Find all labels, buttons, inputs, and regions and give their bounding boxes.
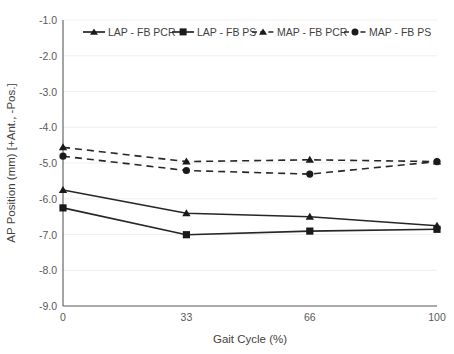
legend-item-label: LAP - FB PCR <box>108 26 176 38</box>
y-tick-label: -4.0 <box>39 121 57 133</box>
data-point-marker <box>306 171 313 178</box>
data-point-marker <box>59 204 66 211</box>
data-point-marker <box>183 167 190 174</box>
y-tick-label: -7.0 <box>39 229 57 241</box>
chart-container: -1.0 -2.0 -3.0 -4.0 -5.0 -6.0 -7.0 -8.0 … <box>0 0 454 354</box>
legend-square-marker-icon <box>180 28 187 35</box>
y-tick-label: -1.0 <box>39 14 57 26</box>
x-tick-label: 100 <box>428 311 446 323</box>
y-tick-label: -3.0 <box>39 86 57 98</box>
y-tick-label: -2.0 <box>39 50 57 62</box>
data-point-marker <box>433 226 440 233</box>
y-tick-label: -5.0 <box>39 157 57 169</box>
data-point-marker <box>59 153 66 160</box>
y-axis-tick-labels: -1.0 -2.0 -3.0 -4.0 -5.0 -6.0 -7.0 -8.0 … <box>39 14 57 312</box>
y-tick-label: -8.0 <box>39 264 57 276</box>
y-tick-label: -9.0 <box>39 300 57 312</box>
x-tick-label: 66 <box>304 311 316 323</box>
data-point-marker <box>433 158 440 165</box>
legend-item-label: MAP - FB PCR <box>277 26 348 38</box>
legend-circle-marker-icon <box>352 29 359 36</box>
data-point-marker <box>183 231 190 238</box>
y-tick-label: -6.0 <box>39 193 57 205</box>
legend-item-label: LAP - FB PS <box>197 26 256 38</box>
y-axis-title: AP Position (mm) [+Ant., -Pos.] <box>5 83 17 242</box>
ap-position-line-chart: -1.0 -2.0 -3.0 -4.0 -5.0 -6.0 -7.0 -8.0 … <box>0 0 454 354</box>
x-tick-label: 33 <box>181 311 193 323</box>
legend-item-label: MAP - FB PS <box>369 26 431 38</box>
data-point-marker <box>306 228 313 235</box>
x-tick-label: 0 <box>60 311 66 323</box>
x-axis-title: Gait Cycle (%) <box>213 333 287 345</box>
chart-background <box>0 0 454 354</box>
